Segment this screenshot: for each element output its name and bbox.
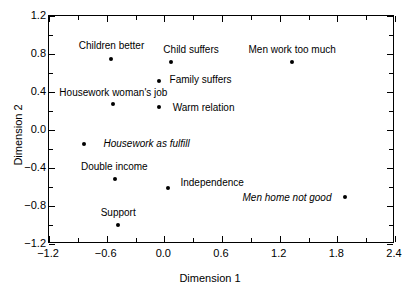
x-axis-tick-label: 0.0 xyxy=(156,247,171,259)
y-axis-tick xyxy=(49,244,55,245)
y-axis-tick xyxy=(49,16,55,17)
data-point-label: Housework as fulfill xyxy=(104,138,190,149)
x-axis-minor-tick xyxy=(251,238,252,242)
data-point-label: Warm relation xyxy=(173,102,235,113)
y-axis-minor-tick xyxy=(49,35,53,36)
y-axis-minor-tick xyxy=(49,149,53,150)
y-axis-label: Dimension 2 xyxy=(12,75,24,195)
data-point-label: Men home not good xyxy=(243,192,332,203)
data-point-label: Child suffers xyxy=(163,43,218,54)
x-axis-minor-tick-top xyxy=(251,16,252,20)
y-axis-tick-label: 0.8 xyxy=(31,47,46,59)
x-axis-tick xyxy=(222,236,223,242)
x-axis-tick-label: −0.6 xyxy=(95,247,117,259)
x-axis-tick-label: 1.2 xyxy=(271,247,286,259)
data-point xyxy=(290,60,294,64)
x-axis-tick-top xyxy=(164,16,165,22)
data-point xyxy=(82,142,86,146)
y-axis-tick-label: −0.4 xyxy=(24,161,46,173)
y-axis-tick-right xyxy=(387,244,393,245)
x-axis-tick xyxy=(395,236,396,242)
y-axis-tick-right xyxy=(387,16,393,17)
x-axis-minor-tick xyxy=(78,238,79,242)
y-axis-tick-label: 1.2 xyxy=(31,9,46,21)
x-axis-tick xyxy=(107,236,108,242)
data-point-label: Children better xyxy=(79,39,145,50)
y-axis-tick xyxy=(49,168,55,169)
data-point xyxy=(157,105,161,109)
y-axis-minor-tick-right xyxy=(389,111,393,112)
x-axis-label: Dimension 1 xyxy=(0,272,420,284)
y-axis-minor-tick xyxy=(49,73,53,74)
data-point-label: Family suffers xyxy=(170,73,232,84)
data-point-label: Housework woman's job xyxy=(59,87,167,98)
y-axis-minor-tick xyxy=(49,187,53,188)
scatter-plot-figure: Children betterChild suffersFamily suffe… xyxy=(0,0,420,292)
x-axis-minor-tick-top xyxy=(78,16,79,20)
x-axis-tick xyxy=(49,236,50,242)
data-point xyxy=(157,79,161,83)
x-axis-minor-tick xyxy=(366,238,367,242)
x-axis-tick-top xyxy=(280,16,281,22)
y-axis-minor-tick-right xyxy=(389,187,393,188)
x-axis-tick-top xyxy=(337,16,338,22)
x-axis-tick-top xyxy=(222,16,223,22)
x-axis-minor-tick-top xyxy=(136,16,137,20)
y-axis-minor-tick xyxy=(49,111,53,112)
data-point xyxy=(111,102,115,106)
x-axis-minor-tick xyxy=(309,238,310,242)
data-point xyxy=(166,186,170,190)
plot-area: Children betterChild suffersFamily suffe… xyxy=(48,15,394,243)
y-axis-minor-tick-right xyxy=(389,73,393,74)
data-point-label: Independence xyxy=(180,176,243,187)
x-axis-tick xyxy=(280,236,281,242)
data-point xyxy=(109,57,113,61)
y-axis-tick xyxy=(49,92,55,93)
data-point xyxy=(343,195,347,199)
y-axis-tick xyxy=(49,130,55,131)
x-axis-tick-label: 0.6 xyxy=(213,247,228,259)
x-axis-tick xyxy=(164,236,165,242)
y-axis-tick xyxy=(49,206,55,207)
y-axis-tick-label: −0.8 xyxy=(24,199,46,211)
y-axis-tick-right xyxy=(387,168,393,169)
x-axis-minor-tick xyxy=(193,238,194,242)
y-axis-tick-right xyxy=(387,130,393,131)
x-axis-minor-tick-top xyxy=(366,16,367,20)
y-axis-tick-label: 0.4 xyxy=(31,85,46,97)
x-axis-tick-top xyxy=(395,16,396,22)
y-axis-tick-label: −1.2 xyxy=(24,237,46,249)
y-axis-tick-right xyxy=(387,206,393,207)
y-axis-minor-tick-right xyxy=(389,35,393,36)
data-point xyxy=(116,223,120,227)
x-axis-tick-top xyxy=(107,16,108,22)
y-axis-minor-tick xyxy=(49,225,53,226)
x-axis-minor-tick xyxy=(136,238,137,242)
y-axis-tick-label: 0.0 xyxy=(31,123,46,135)
y-axis-tick-right xyxy=(387,92,393,93)
data-point-label: Men work too much xyxy=(249,43,336,54)
y-axis-tick xyxy=(49,54,55,55)
data-point xyxy=(169,60,173,64)
data-point xyxy=(113,177,117,181)
y-axis-minor-tick-right xyxy=(389,225,393,226)
x-axis-minor-tick-top xyxy=(309,16,310,20)
x-axis-tick xyxy=(337,236,338,242)
data-point-label: Support xyxy=(101,207,136,218)
y-axis-minor-tick-right xyxy=(389,149,393,150)
data-point-label: Double income xyxy=(81,161,148,172)
y-axis-tick-right xyxy=(387,54,393,55)
x-axis-minor-tick-top xyxy=(193,16,194,20)
x-axis-tick-label: 2.4 xyxy=(386,247,401,259)
x-axis-tick-label: 1.8 xyxy=(329,247,344,259)
